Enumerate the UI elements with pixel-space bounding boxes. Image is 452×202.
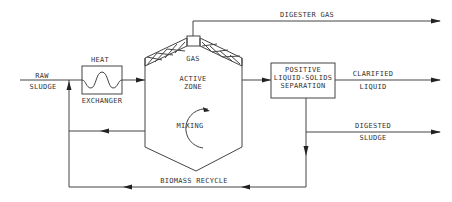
clarified-liquid-arrow-icon — [431, 78, 441, 83]
biomass-recycle-label: BIOMASS RECYCLE — [160, 178, 228, 185]
roof-hatch-left — [147, 42, 185, 65]
digester-recycle-arrow-icon — [100, 129, 109, 134]
zone-label: ZONE — [184, 84, 202, 91]
biomass-recycle-arrow-right-icon — [241, 185, 250, 190]
gas-dome — [187, 36, 200, 46]
liquid-solids-label: LIQUID-SOLIDS — [274, 75, 333, 82]
digester-roof-left — [145, 38, 187, 66]
clarified-label: CLARIFIED — [353, 71, 394, 78]
heat-exchanger-box — [82, 66, 122, 94]
raw-label: RAW — [35, 73, 49, 80]
biomass-recycle-arrow-left-icon — [123, 185, 132, 190]
mixing-arrow-icon — [203, 107, 210, 112]
liquid-label: LIQUID — [359, 84, 386, 91]
heat-exchanger-coil-icon — [82, 72, 122, 88]
positive-label: POSITIVE — [285, 67, 321, 74]
digester-gas-arrow-icon — [431, 19, 441, 24]
heat-label: HEAT — [91, 57, 109, 64]
digested-sludge-arrow-icon — [431, 130, 441, 135]
exchanger-to-digester-arrow-icon — [136, 78, 145, 83]
gas-label: GAS — [186, 56, 200, 63]
underflow-down-arrow-icon — [304, 146, 309, 156]
process-flow-diagram: RAW SLUDGE HEAT EXCHANGER GAS ACTIVE ZON… — [0, 0, 452, 202]
digester-gas-line — [193, 21, 440, 36]
mixing-label: MIXING — [176, 123, 203, 130]
digested-sludge-label: SLUDGE — [359, 135, 386, 142]
active-label: ACTIVE — [179, 76, 206, 83]
separation-label: SEPARATION — [280, 83, 325, 90]
sludge-label: SLUDGE — [29, 84, 56, 91]
digester-to-separator-arrow-icon — [262, 78, 271, 83]
exchanger-label: EXCHANGER — [82, 98, 123, 105]
digested-label: DIGESTED — [355, 123, 391, 130]
roof-hatch-right — [202, 42, 240, 64]
recycle-up-arrow-icon — [67, 81, 72, 90]
digester-gas-label: DIGESTER GAS — [280, 12, 334, 19]
